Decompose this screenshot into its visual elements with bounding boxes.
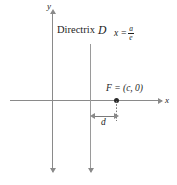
directrix-arrow-bottom-icon	[88, 168, 94, 173]
fraction-denominator: e	[128, 34, 133, 42]
y-axis-label: y	[47, 2, 51, 11]
distance-label: d	[101, 118, 106, 128]
x-axis-label: x	[165, 96, 169, 105]
distance-arrow-right-icon	[114, 113, 119, 119]
x-axis-arrow-icon	[158, 98, 163, 104]
directrix-equation-lhs: x =	[114, 29, 127, 39]
directrix-word-label: Directrix	[57, 25, 95, 36]
directrix-fraction: a e	[128, 25, 134, 42]
directrix-line	[90, 44, 91, 172]
directrix-equation-label: x = a e	[114, 25, 134, 42]
conic-directrix-diagram: y x Directrix D x = a e F = (c, 0) d	[0, 0, 177, 185]
y-axis-line	[52, 12, 53, 172]
x-axis-line	[10, 100, 162, 101]
directrix-symbol-label: D	[98, 25, 107, 36]
distance-arrow-left-icon	[90, 113, 95, 119]
fraction-numerator: a	[128, 25, 134, 33]
focus-label: F = (c, 0)	[106, 84, 143, 94]
y-axis-arrow-bottom-icon	[50, 168, 56, 173]
